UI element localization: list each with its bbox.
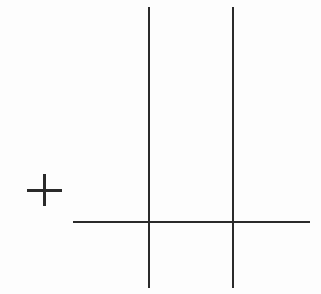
diagram-canvas [0, 0, 321, 294]
horizontal-line [73, 221, 310, 223]
vertical-line-left [148, 7, 150, 288]
plus-sign-vertical-stroke [43, 174, 46, 206]
vertical-line-right [232, 7, 234, 288]
